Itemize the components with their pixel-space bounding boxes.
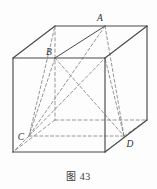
vertex-labels: A B C D: [18, 13, 134, 149]
tetrahedron-dashed-edges: [29, 26, 124, 136]
tetrahedron-solid-edges: [55, 26, 105, 58]
construction-lines: [13, 26, 147, 152]
tetra-edge-BD: [55, 58, 124, 136]
vertex-label-B: B: [46, 47, 52, 57]
cube-diagram: A B C D: [0, 0, 157, 189]
caption-number: 43: [80, 171, 91, 182]
tetra-edge-AD: [105, 26, 124, 136]
vertex-label-D: D: [126, 139, 134, 149]
cube-hidden-edges: [13, 26, 147, 152]
cube-visible-edges: [13, 26, 147, 152]
tetra-edge-BC: [29, 58, 55, 136]
tetra-edge-AB: [55, 26, 105, 58]
caption-label: 图: [66, 171, 77, 182]
cube-edge-top-right-depth: [105, 26, 147, 58]
vertex-label-A: A: [96, 13, 103, 23]
construction-line-D-to-front-top-right: [105, 58, 124, 136]
vertex-label-C: C: [18, 132, 25, 142]
construction-line-C-to-front-top-right: [29, 58, 105, 136]
tetra-edge-AC: [29, 26, 105, 136]
figure-caption: 图43: [0, 168, 157, 183]
figure-container: A B C D 图43: [0, 0, 157, 189]
